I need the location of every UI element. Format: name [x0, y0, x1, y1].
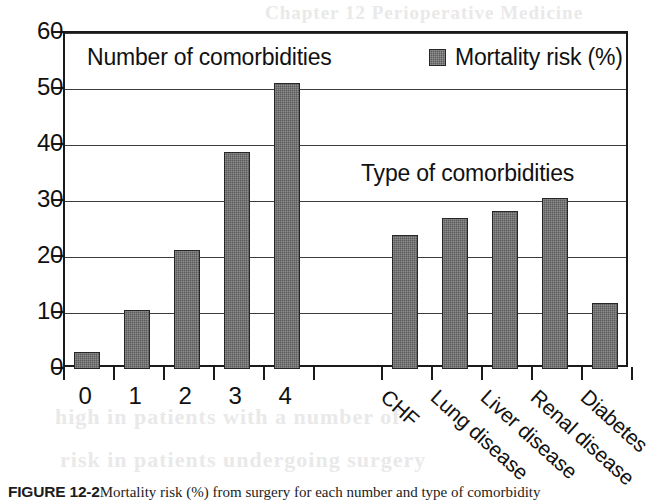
x-tick-mark-6: [381, 367, 383, 380]
x-tick-label-1: 1: [115, 383, 155, 409]
y-tick-label-60: 60: [15, 19, 63, 43]
x-tick-label-0: 0: [65, 383, 105, 409]
x-tick-mark-8: [481, 367, 483, 380]
gridline-40: [65, 145, 626, 146]
legend-label: Mortality risk (%): [455, 45, 623, 70]
bar-1[interactable]: [124, 310, 150, 369]
x-tick-mark-4: [263, 367, 265, 380]
bar-renal-disease[interactable]: [542, 198, 568, 369]
y-tick-label-10: 10: [15, 299, 63, 323]
x-tick-mark-9: [531, 367, 533, 380]
x-tick-mark-0: [63, 367, 65, 380]
bar-lung-disease[interactable]: [442, 218, 468, 369]
bar-4[interactable]: [274, 83, 300, 369]
x-tick-mark-3: [213, 367, 215, 380]
figure-caption: FIGURE 12-2Mortality risk (%) from surge…: [8, 482, 648, 500]
x-axis: 01234CHFLung diseaseLiver diseaseRenal d…: [63, 367, 628, 497]
y-tick-label-50: 50: [15, 75, 63, 99]
gridline-50: [65, 89, 626, 90]
bar-series-swatch: [429, 49, 446, 66]
x-tick-label-chf: CHF: [377, 385, 424, 431]
x-tick-label-4: 4: [265, 383, 305, 409]
bar-diabetes[interactable]: [592, 303, 618, 369]
bar-3[interactable]: [224, 152, 250, 369]
y-tick-label-20: 20: [15, 243, 63, 267]
x-tick-mark-1: [113, 367, 115, 380]
y-tick-label-30: 30: [15, 187, 63, 211]
y-tick-label-40: 40: [15, 131, 63, 155]
annotation-type-of-comorbidities: Type of comorbidities: [361, 161, 574, 186]
x-tick-mark-7: [431, 367, 433, 380]
figure-bar-chart: 0102030405060 Number of comorbiditiesTyp…: [0, 0, 653, 500]
bar-liver-disease[interactable]: [492, 211, 518, 369]
x-tick-mark-11: [631, 367, 633, 380]
x-tick-mark-5: [313, 367, 315, 380]
x-tick-mark-2: [163, 367, 165, 380]
y-tick-label-0: 0: [15, 355, 63, 379]
figure-caption-label: FIGURE 12-2: [8, 483, 100, 500]
plot-area: Number of comorbiditiesType of comorbidi…: [63, 31, 628, 367]
x-tick-label-2: 2: [165, 383, 205, 409]
figure-caption-text: Mortality risk (%) from surgery for each…: [100, 484, 541, 500]
x-tick-label-3: 3: [215, 383, 255, 409]
bar-chf[interactable]: [392, 235, 418, 369]
bar-2[interactable]: [174, 250, 200, 369]
y-axis: 0102030405060: [0, 0, 63, 400]
legend: Mortality risk (%): [429, 45, 623, 70]
annotation-number-of-comorbidities: Number of comorbidities: [87, 45, 332, 70]
gridline-60: [65, 33, 626, 34]
x-tick-mark-10: [581, 367, 583, 380]
